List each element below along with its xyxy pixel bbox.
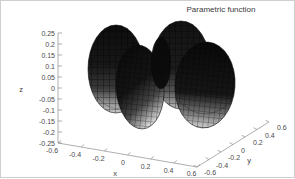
z-tick-label: 0.2 [45, 41, 55, 48]
y-tick-label: 0.6 [277, 124, 287, 131]
z-tick-label: -0.25 [39, 140, 55, 147]
z-tick-label: 0.05 [41, 74, 55, 81]
z-tick-label: -0.15 [39, 118, 55, 125]
z-tick-labels: 0.25 0.2 0.15 0.1 0.05 0 -0.05 -0.1 -0.1… [39, 30, 55, 147]
x-tick-labels: -0.6 -0.4 -0.2 0 0.2 0.4 0.6 [46, 147, 197, 177]
parametric-function-plot: Parametric function 0.25 0.2 [0, 0, 295, 178]
x-axis-label: x [113, 169, 117, 178]
y-axis-label: y [247, 156, 251, 165]
plot-canvas: Parametric function 0.25 0.2 [1, 1, 295, 178]
z-axis-label: z [19, 85, 23, 94]
x-tick-label: 0.2 [141, 163, 151, 170]
y-axis: -0.6 -0.4 -0.2 0 0.2 0.4 0.6 y [194, 120, 287, 176]
z-tick-label: 0.15 [41, 52, 55, 59]
parametric-surface [86, 19, 239, 133]
z-tick-label: 0.25 [41, 30, 55, 37]
y-tick-label: -0.6 [204, 169, 216, 176]
x-tick-label: -0.2 [92, 155, 104, 162]
z-tick-label: -0.05 [39, 96, 55, 103]
y-tick-label: -0.4 [216, 162, 228, 169]
chart-title: Parametric function [187, 5, 256, 14]
y-tick-labels: -0.6 -0.4 -0.2 0 0.2 0.4 0.6 [204, 124, 287, 176]
z-tick-label: 0.1 [45, 63, 55, 70]
surface-center-seam [151, 37, 171, 89]
x-axis: -0.6 -0.4 -0.2 0 0.2 0.4 0.6 x [46, 141, 200, 179]
x-tick-label: 0.6 [187, 170, 197, 177]
z-tick-label: -0.2 [43, 129, 55, 136]
y-tick-label: 0 [241, 147, 245, 154]
y-tick-label: 0.2 [253, 139, 263, 146]
z-tick-label: -0.1 [43, 107, 55, 114]
z-tick-label: 0 [51, 85, 55, 92]
x-tick-label: 0 [121, 159, 125, 166]
z-tick-marks [58, 33, 62, 143]
x-tick-label: -0.6 [46, 147, 58, 154]
y-tick-label: 0.4 [265, 132, 275, 139]
x-tick-label: 0.4 [164, 167, 174, 174]
y-tick-label: -0.2 [228, 154, 240, 161]
z-axis: 0.25 0.2 0.15 0.1 0.05 0 -0.05 -0.1 -0.1… [19, 30, 62, 147]
x-tick-label: -0.4 [69, 151, 81, 158]
